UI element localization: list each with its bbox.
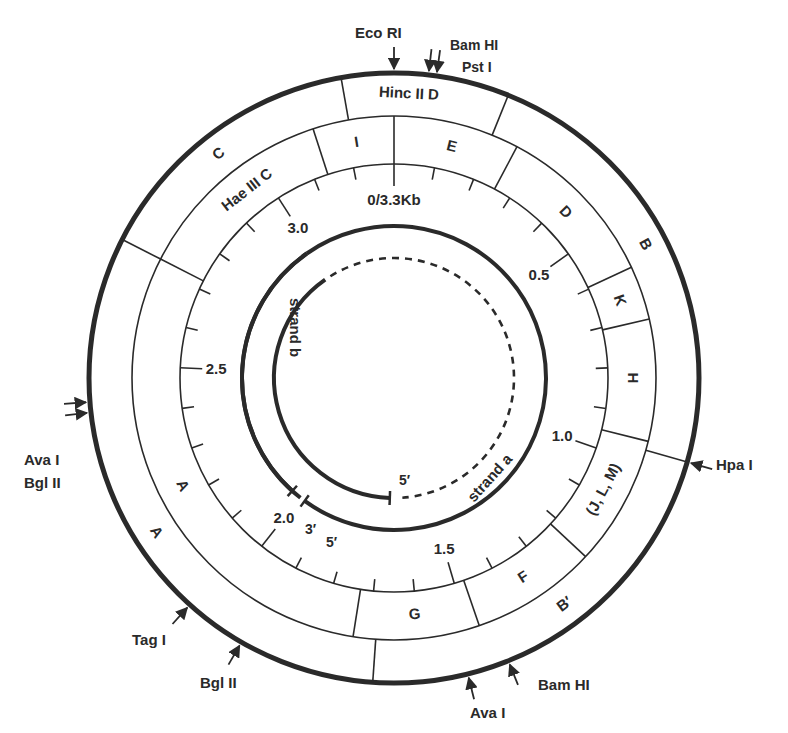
site-arrow-icon <box>229 646 240 665</box>
major-tick <box>180 368 202 369</box>
major-tick <box>575 441 596 448</box>
strand-b-three-prime-label: 3′ <box>305 521 317 537</box>
hae-iii-boundary-line <box>603 319 650 330</box>
restriction-map-svg: 0/3.3Kb0.51.01.52.02.53.0 Hinc II DBB′AC… <box>0 0 788 733</box>
hae-iii-fragment-label: D <box>556 202 576 222</box>
scale-label: 1.0 <box>552 427 573 444</box>
hae-iii-fragment-label: G <box>408 605 421 623</box>
hinc-ii-boundary-line <box>646 450 687 462</box>
hinc-ii-fragment-label: A <box>147 523 167 541</box>
hinc-ii-boundary-line <box>122 240 160 260</box>
scale-label: 0.5 <box>529 266 550 283</box>
strand-a-five-prime-label: 5′ <box>399 472 411 488</box>
site-pst-i: Pst I <box>462 59 492 75</box>
major-tick <box>262 529 276 546</box>
minor-tick <box>232 510 241 518</box>
hinc-ii-boundary-line <box>492 95 508 135</box>
hae-iii-fragment-label: F <box>514 567 531 586</box>
site-hpa-i: Hpa I <box>716 456 753 473</box>
minor-tick <box>220 254 230 261</box>
restriction-map: 0/3.3Kb0.51.01.52.02.53.0 Hinc II DBB′AC… <box>0 0 788 733</box>
minor-tick <box>209 479 219 485</box>
major-tick <box>448 562 454 583</box>
dna-strands <box>242 226 546 530</box>
minor-tick <box>569 479 579 485</box>
site-arrow-icon <box>65 413 87 415</box>
minor-tick <box>192 444 203 448</box>
minor-tick <box>199 289 210 294</box>
minor-tick <box>594 407 606 409</box>
minor-tick <box>334 572 337 584</box>
minor-tick <box>469 179 473 190</box>
site-bam-hi-bottom: Bam HI <box>538 676 590 693</box>
minor-tick <box>186 327 198 330</box>
hae-iii-boundary-line <box>588 267 632 287</box>
hae-iii-boundary-line <box>602 430 649 442</box>
minor-tick <box>354 168 356 180</box>
minor-tick <box>533 223 541 232</box>
site-bgl-ii-left: Bgl II <box>24 474 61 491</box>
site-ava-i-left: Ava I <box>24 451 59 468</box>
minor-tick <box>296 558 302 569</box>
site-arrows <box>64 47 712 699</box>
strand-a-five-prime-end-label: 5′ <box>326 534 338 550</box>
scale-label: 2.5 <box>206 360 227 377</box>
minor-tick <box>487 558 492 569</box>
hinc-ii-fragment-label: Hinc II D <box>379 83 440 103</box>
minor-tick <box>246 223 254 232</box>
hinc-ii-fragment-label: B <box>636 235 656 253</box>
scale-label: 0/3.3Kb <box>367 191 420 208</box>
minor-tick <box>596 368 608 369</box>
minor-tick <box>432 168 434 180</box>
hinc-ii-fragment-label: B′ <box>553 592 575 615</box>
minor-tick <box>182 407 194 409</box>
site-tag-i: Tag I <box>132 631 166 648</box>
hae-iii-boundary-line <box>464 580 480 625</box>
minor-tick <box>590 328 602 331</box>
hae-iii-fragment-label: I <box>353 133 360 150</box>
hinc-ii-fragment-label: C <box>209 143 228 163</box>
kb-scale-ticks: 0/3.3Kb0.51.01.52.02.53.0 <box>180 164 608 591</box>
site-bgl-ii-bottom: Bgl II <box>200 674 237 691</box>
site-arrow-icon <box>510 664 518 684</box>
site-arrow-icon <box>691 463 712 469</box>
restriction-site-labels: Eco RI Bam HI Pst I Hpa I Bam HI Ava I B… <box>24 24 753 721</box>
minor-tick <box>374 579 375 591</box>
site-arrow-icon <box>64 402 86 404</box>
minor-tick <box>547 510 556 518</box>
site-bam-hi-top: Bam HI <box>450 37 498 53</box>
hae-iii-fragment-label: A <box>173 477 193 495</box>
hae-iii-boundary-line <box>494 147 517 189</box>
hae-iii-fragment-label: H <box>625 373 642 384</box>
hae-iii-boundary-line <box>313 129 328 175</box>
hae-iii-boundary-line <box>551 524 586 557</box>
site-arrow-icon <box>173 608 188 624</box>
site-arrow-icon <box>469 678 474 699</box>
hae-iii-boundary-line <box>353 589 361 636</box>
hae-iii-boundary-line <box>161 259 204 281</box>
scale-ring-circle <box>180 164 608 592</box>
hae-iii-fragment-label: E <box>445 136 459 155</box>
site-eco-ri: Eco RI <box>355 24 402 41</box>
minor-tick <box>503 198 509 208</box>
hinc-ii-boundary-line <box>373 639 376 682</box>
hae-iii-fragment-label: K <box>611 292 631 308</box>
site-arrow-icon <box>437 50 440 72</box>
scale-label: 3.0 <box>287 219 308 236</box>
strand-b-label: strand b <box>287 298 304 357</box>
hinc-ii-boundary-line <box>341 78 348 120</box>
strand-a-dashed-arc <box>330 258 514 498</box>
scale-label: 1.5 <box>434 540 455 557</box>
major-tick <box>278 198 290 217</box>
scale-label: 2.0 <box>273 509 294 526</box>
site-ava-i-bottom: Ava I <box>470 704 505 721</box>
minor-tick <box>413 579 414 591</box>
minor-tick <box>578 289 589 294</box>
site-arrow-icon <box>429 49 431 71</box>
minor-tick <box>315 179 319 190</box>
major-tick <box>550 254 568 267</box>
minor-tick <box>519 537 526 546</box>
